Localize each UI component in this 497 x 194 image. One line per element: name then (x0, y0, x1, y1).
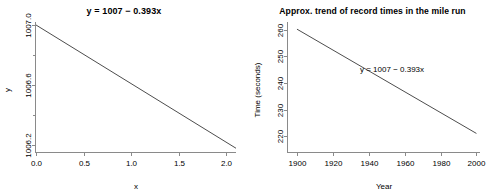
x-tick-label: 0.0 (31, 159, 43, 168)
x-axis-label-right: Year (376, 182, 393, 191)
x-tick-label: 1940 (361, 159, 379, 168)
x-tick-label: 1980 (433, 159, 451, 168)
x-tick-label: 1960 (397, 159, 415, 168)
y-tick-label: 240 (276, 76, 285, 90)
y-tick-label: 230 (276, 103, 285, 117)
x-tick-label: 0.5 (79, 159, 91, 168)
trend-line-left (36, 25, 236, 148)
trend-line-right (297, 29, 476, 133)
x-axis-label-left: x (134, 182, 138, 191)
y-tick-label: 250 (276, 49, 285, 63)
y-axis-label-right: Time (seconds) (253, 62, 262, 117)
chart-panel-left: y = 1007 − 0.393x 0.00.51.01.52.0 1006.2… (0, 0, 248, 194)
y-tick-labels-left: 1006.21006.61007.0 (24, 13, 33, 158)
x-tick-label: 1.0 (126, 159, 138, 168)
x-tick-label: 1.5 (174, 159, 186, 168)
x-tick-label: 2.0 (221, 159, 233, 168)
x-tick-label: 1920 (325, 159, 343, 168)
figure-container: y = 1007 − 0.393x 0.00.51.01.52.0 1006.2… (0, 0, 497, 194)
x-tick-label: 2000 (468, 159, 486, 168)
y-tick-labels-right: 220230240250260 (276, 23, 285, 143)
y-tick-label: 220 (276, 129, 285, 143)
y-tick-label: 260 (276, 23, 285, 37)
plot-area-right: 190019201940196019802000 220230240250260… (248, 0, 497, 194)
equation-annotation-right: y = 1007 − 0.393x (360, 65, 424, 74)
x-tick-labels-right: 190019201940196019802000 (289, 159, 486, 168)
x-tick-labels-left: 0.00.51.01.52.0 (31, 159, 233, 168)
plot-area-left: 0.00.51.01.52.0 1006.21006.61007.0 x y (0, 0, 248, 194)
y-tick-label: 1006.2 (24, 133, 33, 158)
y-tick-label: 1007.0 (24, 13, 33, 38)
chart-panel-right: Approx. trend of record times in the mil… (248, 0, 497, 194)
x-tick-label: 1900 (289, 159, 307, 168)
y-axis-label-left: y (3, 88, 12, 92)
y-tick-label: 1006.6 (24, 73, 33, 98)
